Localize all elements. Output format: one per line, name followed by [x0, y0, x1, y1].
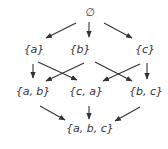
node-ab: {a, b} — [16, 85, 51, 98]
arrow-c-to-ca — [103, 64, 140, 81]
arrow-empty-to-c — [104, 23, 132, 38]
arrow-b-to-ab — [46, 63, 84, 81]
node-a: {a} — [24, 43, 45, 56]
edges — [33, 22, 147, 121]
arrow-empty-to-a — [46, 23, 76, 38]
node-abc: {a, b, c} — [66, 122, 114, 135]
arrow-bc-to-abc — [115, 107, 140, 121]
node-ca: {c, a} — [69, 85, 103, 98]
arrow-a-to-ca — [38, 62, 77, 80]
hasse-diagram: ∅{a}{b}{c}{a, b}{c, a}{b, c}{a, b, c} — [0, 0, 168, 149]
arrow-ab-to-abc — [40, 106, 65, 120]
node-empty: ∅ — [85, 6, 95, 19]
node-c: {c} — [135, 43, 155, 56]
node-b: {b} — [70, 43, 91, 56]
node-bc: {b, c} — [129, 85, 163, 98]
arrow-b-to-bc — [95, 62, 132, 81]
